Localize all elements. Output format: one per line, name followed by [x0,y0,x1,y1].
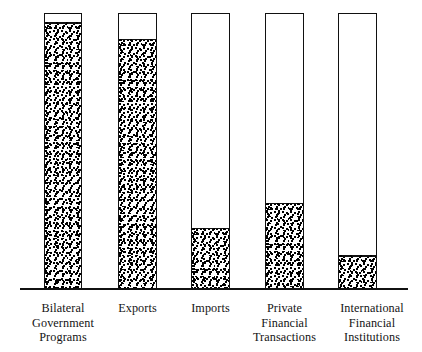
fill-cap [266,203,303,204]
fill-cap [45,22,81,23]
fill-cap [192,228,229,229]
label-line: Exports [98,301,177,316]
bar-chart: Bilateral Government Programs Exports Im… [0,0,422,352]
category-label-exports: Exports [98,301,177,316]
bar-imports[interactable] [191,13,230,289]
bar-fill-bilateral-government-programs [45,22,81,288]
fill-cap [119,39,156,40]
bar-fill-international-financial-institutions [339,255,376,288]
bar-bilateral-government-programs[interactable] [44,13,82,289]
bar-exports[interactable] [118,13,157,289]
label-line: Financial [325,316,419,331]
bar-fill-imports [192,228,229,288]
bar-fill-exports [119,39,156,288]
bar-private-financial-transactions[interactable] [265,13,304,289]
label-line: Imports [171,301,250,316]
category-label-private-financial-transactions: Private Financial Transactions [240,301,329,345]
plot-area [0,0,422,292]
label-line: Financial [240,316,329,331]
label-line: Transactions [240,330,329,345]
bar-fill-private-financial-transactions [266,203,303,288]
label-line: International [325,301,419,316]
label-line: Private [240,301,329,316]
category-labels: Bilateral Government Programs Exports Im… [0,292,422,352]
category-label-imports: Imports [171,301,250,316]
category-label-international-financial-institutions: International Financial Institutions [325,301,419,345]
fill-cap [339,255,376,256]
bar-international-financial-institutions[interactable] [338,13,377,289]
label-line: Programs [13,330,113,345]
label-line: Institutions [325,330,419,345]
label-line: Government [13,316,113,331]
x-axis-baseline [20,288,408,290]
